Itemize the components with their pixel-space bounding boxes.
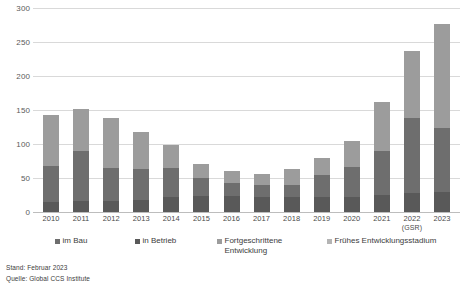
- bar-segment: [374, 102, 390, 151]
- bar-segment: [224, 171, 240, 183]
- x-axis-tick-label: 2019: [313, 214, 330, 223]
- stacked-bar-chart: 050100150200250300 201020112012201320142…: [0, 0, 466, 286]
- bar-segment: [193, 196, 209, 212]
- x-axis-tick-label: 2022: [403, 214, 420, 223]
- bar-segment: [434, 128, 450, 191]
- bar-segment: [133, 200, 149, 212]
- bar-series-container: [33, 8, 460, 212]
- bar-segment: [284, 169, 300, 185]
- x-axis-tick-label: 2016: [223, 214, 240, 223]
- x-axis-tick-label: 2012: [103, 214, 120, 223]
- stacked-bar: [434, 24, 450, 212]
- bar-segment: [254, 185, 270, 197]
- stacked-bar: [103, 118, 119, 212]
- bar-column-2018: [277, 8, 307, 212]
- bar-column-2022: [397, 8, 427, 212]
- bar-segment: [284, 185, 300, 197]
- legend-label: Fortgeschrittene Entwicklung: [225, 236, 328, 256]
- bar-column-2019: [307, 8, 337, 212]
- bar-segment: [254, 174, 270, 185]
- bar-column-2020: [337, 8, 367, 212]
- legend-swatch-icon: [327, 239, 332, 244]
- bar-column-2010: [36, 8, 66, 212]
- bar-column-2012: [96, 8, 126, 212]
- x-axis-tick-label: 2015: [193, 214, 210, 223]
- stacked-bar: [314, 158, 330, 212]
- y-axis-tick-100: 100: [16, 140, 30, 149]
- bar-segment: [163, 197, 179, 212]
- bar-segment: [434, 24, 450, 129]
- x-axis-tick-label: 2014: [163, 214, 180, 223]
- bar-segment: [163, 145, 179, 167]
- bar-segment: [193, 164, 209, 178]
- bar-column-2014: [156, 8, 186, 212]
- x-axis-tick-label: 2023: [434, 214, 451, 223]
- bar-segment: [163, 168, 179, 197]
- bar-segment: [404, 51, 420, 118]
- bar-segment: [133, 132, 149, 169]
- bar-segment: [254, 197, 270, 212]
- bar-segment: [103, 201, 119, 212]
- plot-area: 050100150200250300 201020112012201320142…: [0, 8, 466, 220]
- stacked-bar: [43, 115, 59, 212]
- bar-column-2011: [66, 8, 96, 212]
- bar-segment: [43, 166, 59, 202]
- bar-segment: [314, 158, 330, 175]
- bar-column-2015: [186, 8, 216, 212]
- y-axis-tick-300: 300: [16, 4, 30, 13]
- bar-segment: [73, 201, 89, 212]
- y-axis-labels: 050100150200250300: [0, 8, 30, 212]
- chart-footnotes: Stand: Februar 2023 Quelle: Global CCS I…: [6, 262, 90, 284]
- y-axis-tick-250: 250: [16, 38, 30, 47]
- bar-column-2021: [367, 8, 397, 212]
- legend-label: im Bau: [63, 236, 88, 246]
- legend-label: Frühes Entwicklungsstadium: [335, 236, 437, 246]
- bar-segment: [73, 151, 89, 201]
- stacked-bar: [133, 132, 149, 212]
- stacked-bar: [284, 169, 300, 213]
- stacked-bar: [254, 174, 270, 212]
- bar-column-2013: [126, 8, 156, 212]
- legend-item-2[interactable]: Fortgeschrittene Entwicklung: [217, 236, 327, 260]
- x-axis-tick-label: 2017: [253, 214, 270, 223]
- bar-segment: [193, 178, 209, 196]
- footnote-source: Quelle: Global CCS Institute: [6, 273, 90, 284]
- bar-segment: [404, 118, 420, 193]
- bar-segment: [133, 169, 149, 200]
- bar-segment: [374, 151, 390, 195]
- bar-segment: [224, 183, 240, 195]
- legend-item-3[interactable]: Frühes Entwicklungsstadium: [327, 236, 457, 260]
- bar-segment: [224, 196, 240, 212]
- stacked-bar: [73, 109, 89, 212]
- legend-item-0[interactable]: im Bau: [55, 236, 135, 260]
- footnote-date: Stand: Februar 2023: [6, 262, 90, 273]
- stacked-bar: [193, 164, 209, 212]
- bar-segment: [103, 118, 119, 168]
- bar-segment: [43, 115, 59, 166]
- bar-segment: [344, 197, 360, 212]
- chart-legend: im Bauin BetriebFortgeschrittene Entwick…: [33, 236, 462, 260]
- bar-segment: [103, 168, 119, 201]
- x-axis-tick-label: 2011: [73, 214, 90, 223]
- bar-segment: [314, 175, 330, 197]
- y-axis-tick-50: 50: [21, 174, 30, 183]
- legend-item-1[interactable]: in Betrieb: [135, 236, 217, 260]
- bar-column-2016: [216, 8, 246, 212]
- stacked-bar: [344, 141, 360, 212]
- x-axis-tick-label: 2018: [283, 214, 300, 223]
- bar-segment: [314, 197, 330, 212]
- bar-column-2023: [427, 8, 457, 212]
- grid-area: [33, 8, 460, 212]
- stacked-bar: [374, 102, 390, 212]
- y-axis-tick-150: 150: [16, 106, 30, 115]
- bar-segment: [284, 197, 300, 212]
- x-axis-tick-label: 2013: [133, 214, 150, 223]
- x-axis-tick-label: 2020: [343, 214, 360, 223]
- stacked-bar: [163, 145, 179, 212]
- bar-segment: [434, 192, 450, 212]
- x-axis-tick-label: 2021: [373, 214, 390, 223]
- bar-column-2017: [247, 8, 277, 212]
- bar-segment: [404, 193, 420, 212]
- bar-segment: [344, 141, 360, 168]
- y-axis-tick-0: 0: [25, 208, 30, 217]
